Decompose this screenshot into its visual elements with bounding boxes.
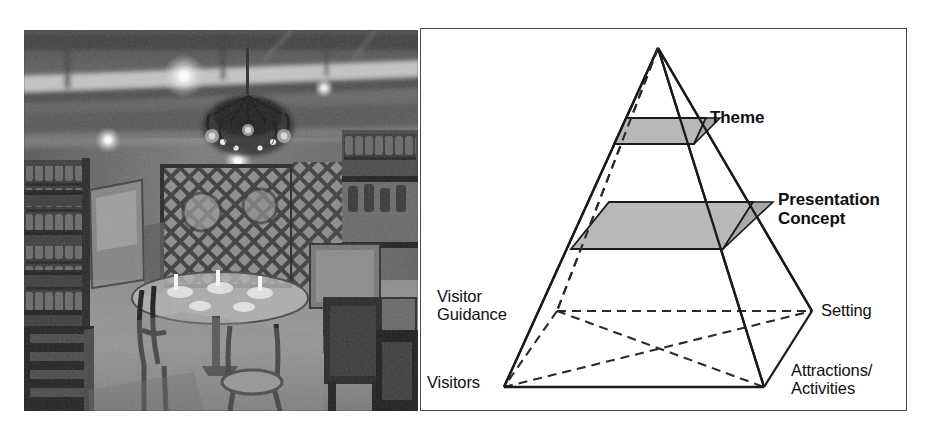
band-presentation-front: [571, 202, 753, 249]
label-theme: Theme: [710, 108, 764, 127]
figure-root: Theme Presentation Concept Visitor Guida…: [0, 0, 930, 440]
edge-apex-right-over: [658, 48, 812, 311]
label-attractions-activities: Attractions/ Activities: [791, 361, 872, 398]
label-setting: Setting: [821, 301, 872, 319]
hidden-diagonal-visitors-right: [504, 311, 812, 387]
hidden-diagonal-backleft-frontright: [557, 311, 764, 387]
label-visitor-guidance: Visitor Guidance: [437, 287, 507, 324]
band-theme-front: [614, 118, 706, 144]
label-visitors: Visitors: [427, 373, 480, 391]
band-presentation-concept: [571, 202, 773, 249]
label-presentation-concept: Presentation Concept: [778, 190, 880, 228]
hidden-edge-overstroke-group: [557, 48, 658, 311]
hidden-edge-apex-backleft-over: [557, 48, 658, 311]
